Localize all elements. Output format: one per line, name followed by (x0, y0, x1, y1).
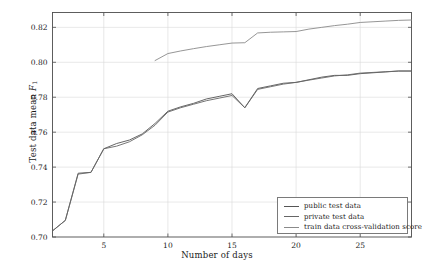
x-tick-label: 25 (348, 241, 372, 250)
chart-legend: public test dataprivate test datatrain d… (277, 197, 408, 234)
legend-line-swatch (284, 206, 299, 207)
legend-item: public test data (282, 201, 403, 212)
y-axis-title-subscript: 1 (31, 81, 39, 85)
y-axis-title-symbol: F (28, 85, 38, 91)
figure-canvas: 0.700.720.740.760.780.800.82 510152025 T… (0, 0, 434, 268)
legend-label: private test data (304, 213, 364, 221)
legend-item: private test data (282, 212, 403, 223)
legend-item: train data cross-validation score (282, 222, 403, 233)
x-axis-title: Number of days (0, 250, 434, 260)
legend-line-swatch (284, 227, 299, 228)
legend-label: train data cross-validation score (304, 223, 422, 231)
y-axis-title: Test data mean F1 (28, 81, 38, 163)
series-line-2 (155, 20, 411, 61)
x-tick-label: 15 (220, 241, 244, 250)
x-tick-label: 20 (284, 241, 308, 250)
legend-label: public test data (304, 202, 361, 210)
x-tick-label: 5 (92, 241, 116, 250)
y-axis-title-wrapper: Test data mean F1 (21, 0, 40, 247)
x-tick-label: 10 (156, 241, 180, 250)
legend-line-swatch (284, 216, 299, 217)
y-axis-title-text: Test data mean (28, 91, 38, 163)
